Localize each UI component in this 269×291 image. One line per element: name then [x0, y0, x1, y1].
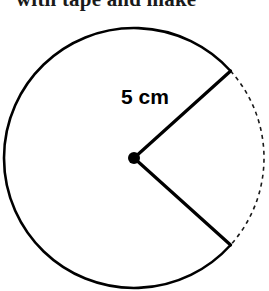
caption-text: with tape and make	[16, 0, 196, 11]
lower-radius-line	[134, 158, 231, 245]
dashed-arc-path	[231, 71, 264, 245]
cropped-caption-strip: with tape and make	[0, 0, 269, 11]
center-point-dot	[128, 152, 140, 164]
major-arc-path	[4, 28, 231, 288]
figure-container: with tape and make 5 cm	[0, 0, 269, 291]
radius-length-label: 5 cm	[121, 85, 169, 109]
circle-sector-diagram	[0, 0, 269, 291]
